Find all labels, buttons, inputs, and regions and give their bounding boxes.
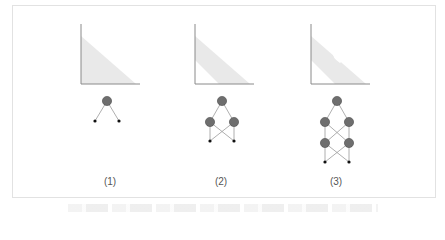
clipped-caption [68, 204, 378, 212]
panel-label-1: (1) [90, 176, 130, 187]
hidden-node [344, 138, 353, 147]
panel-label-2: (2) [201, 176, 241, 187]
hidden-node [320, 117, 329, 126]
panel-label-3: (3) [316, 176, 356, 187]
panel-1 [81, 24, 140, 123]
output-node [102, 96, 111, 105]
panel-2 [195, 24, 254, 143]
decision-region [81, 36, 136, 84]
input-node [93, 119, 96, 122]
output-node [217, 96, 226, 105]
decision-region [195, 36, 250, 84]
hidden-node [229, 117, 238, 126]
input-node [323, 160, 326, 163]
panel-3 [311, 24, 370, 164]
input-node [232, 139, 235, 142]
input-node [117, 119, 120, 122]
input-node [208, 139, 211, 142]
input-node [347, 160, 350, 163]
output-node [332, 96, 341, 105]
hidden-node [320, 138, 329, 147]
hidden-node [344, 117, 353, 126]
hidden-node [205, 117, 214, 126]
